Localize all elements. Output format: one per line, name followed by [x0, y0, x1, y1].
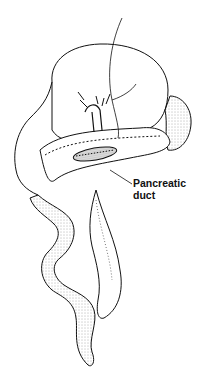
jejunum-loop	[30, 195, 95, 366]
label-line-1: Pancreatic	[133, 177, 186, 189]
pancreatic-duct-label: Pancreatic duct	[133, 177, 186, 201]
label-leader-line	[110, 170, 132, 184]
jejunum-limb	[90, 190, 121, 318]
stomach	[52, 44, 168, 141]
label-line-2: duct	[133, 189, 186, 201]
